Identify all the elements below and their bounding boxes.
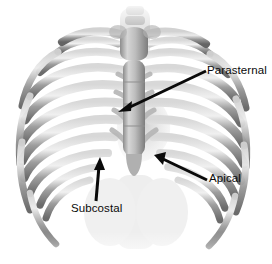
annotation-label-apical: Apical — [209, 172, 241, 184]
ribcage-illustration — [0, 0, 272, 264]
illustration-canvas: Parasternal Apical Subcostal — [0, 0, 272, 264]
annotation-label-subcostal: Subcostal — [71, 202, 122, 214]
annotation-label-parasternal: Parasternal — [207, 64, 267, 76]
